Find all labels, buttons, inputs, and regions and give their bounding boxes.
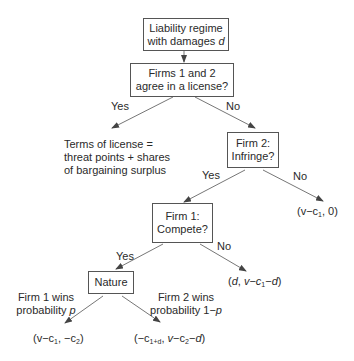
node-license-line1: Firms 1 and 2 [148,67,215,80]
edge-label-license-no: No [226,100,240,113]
edge-label-license-yes: Yes [111,100,129,113]
edge-label-firm1-wins: Firm 1 wins probability p [15,291,77,317]
node-license-decision: Firms 1 and 2 agree in a license? [130,63,234,97]
node-firm1-compete: Firm 1: Compete? [152,203,213,243]
node-liability-regime: Liability regime with damages d [143,18,229,51]
license-terms-line3: of bargaining surplus [64,164,170,177]
payoff-no-infringe: (v−c1, 0) [297,205,338,218]
node-firm2-infringe: Firm 2: Infringe? [227,132,279,168]
node-root-line2: with damages d [147,35,224,48]
edge-label-firm2-wins: Firm 2 wins probability 1−p [149,291,223,317]
edge-license-no [195,97,255,128]
var-p: p [216,304,222,316]
node-license-line2: agree in a license? [136,80,228,93]
firm1-wins-line1: Firm 1 wins [15,291,77,304]
edge-label-firm2-no: No [293,170,307,183]
license-terms-line1: Terms of license = [64,138,170,151]
payoff-firm2-wins: (−c1+d, v−c2−d) [134,332,205,345]
payoff-firm1-wins: (v−c1, −c2) [33,332,84,345]
firm1-wins-line2: probability p [15,304,77,317]
var-d: d [218,35,224,47]
edge-label-firm2-yes: Yes [202,169,220,182]
node-root-line1: Liability regime [149,22,222,35]
node-nature-label: Nature [94,276,127,289]
firm2-wins-line1: Firm 2 wins [149,291,223,304]
edge-label-firm1-yes: Yes [116,250,134,263]
edge-label-firm1-no: No [217,240,231,253]
node-firm1-line2: Compete? [157,223,208,236]
node-firm1-line1: Firm 1: [165,210,199,223]
firm2-wins-line2: probability 1−p [149,304,223,317]
outcome-license-terms: Terms of license = threat points + share… [64,138,170,177]
var-p: p [70,304,76,316]
payoff-no-compete: (d, v−c1−d) [228,275,282,288]
node-firm2-line2: Infringe? [232,150,275,163]
node-firm2-line1: Firm 2: [236,137,270,150]
license-terms-line2: threat points + shares [64,151,170,164]
node-nature: Nature [88,271,134,294]
